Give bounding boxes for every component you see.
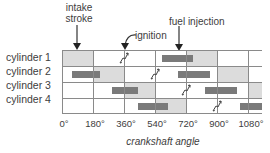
spark-icon [180,84,192,96]
x-tick-540: 540° [147,118,167,129]
spark-icon [149,68,161,80]
grid-hline [62,66,262,67]
row-label-cylinder-3: cylinder 3 [6,79,51,91]
fuel-bar-cyl2-b [178,71,210,78]
fuel-bar-cyl4-a [138,103,168,110]
grid-hline [62,50,262,51]
grid-vline-180 [93,50,94,114]
grid-hline [62,113,262,114]
grid-vline-0 [62,50,63,114]
row-label-cylinder-1: cylinder 1 [6,51,51,63]
fuel-injection-arrow-icon [172,26,186,52]
fuel-bar-cyl4-b [240,103,262,110]
spark-icon [118,52,130,64]
row-label-cylinder-2: cylinder 2 [6,65,51,77]
intake-label-line1: intake [62,2,96,13]
intake-label-line2: stroke [62,13,96,24]
timing-grid [62,50,262,114]
grid-vline-720 [186,50,187,114]
x-tick-900: 900° [209,118,229,129]
fuel-bar-cyl3-a [112,87,138,94]
grid-vline-540 [155,50,156,114]
spark-icon [211,100,223,112]
intake-stroke-annotation: intake stroke [62,2,96,24]
fuel-bar-cyl2-a [72,71,100,78]
ignition-arrow-icon [117,30,139,52]
grid-hline [62,98,262,99]
intake-shade-cyl3-b [248,82,262,98]
fuel-bar-cyl1 [162,55,193,62]
intake-shade-cyl2-b [217,66,248,82]
x-tick-720: 720° [178,118,198,129]
ignition-label: ignition [135,30,167,41]
intake-shade-cyl1-a [62,50,93,66]
x-tick-180: 180° [85,118,105,129]
grid-hline [62,82,262,83]
x-tick-1080: 1080° [239,118,264,129]
x-axis-label: crankshaft angle [126,136,199,147]
row-label-cylinder-4: cylinder 4 [6,93,51,105]
grid-vline-1080 [248,50,249,114]
x-tick-0: 0° [59,118,68,129]
intake-arrow-icon [70,25,84,51]
x-tick-360: 360° [116,118,136,129]
fuel-bar-cyl3-b [205,87,237,94]
